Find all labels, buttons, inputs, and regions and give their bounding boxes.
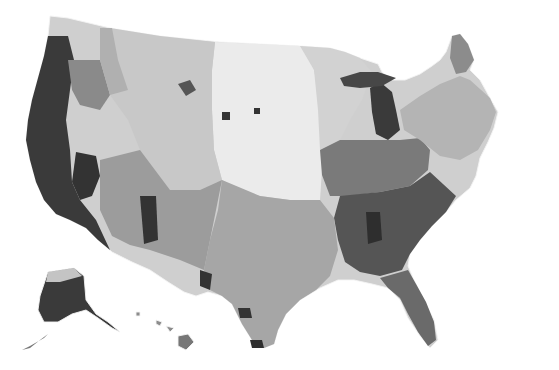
region-texas-south-dark <box>238 308 252 318</box>
region-florida <box>380 270 436 346</box>
us-choropleth-map <box>0 0 559 370</box>
region-great-plains <box>212 42 322 200</box>
region-texas-border-dark <box>250 340 264 348</box>
alaska-aleutians <box>22 334 48 350</box>
region-alabama-dark <box>366 212 382 244</box>
hawaii-inset <box>178 334 194 350</box>
region-texas-oklahoma <box>204 180 338 348</box>
map-canvas <box>0 0 559 370</box>
region-nd-dark <box>254 108 260 114</box>
region-sd-dark <box>222 112 230 120</box>
hawaii-islands <box>136 312 174 332</box>
cut-off-title <box>300 0 440 3</box>
